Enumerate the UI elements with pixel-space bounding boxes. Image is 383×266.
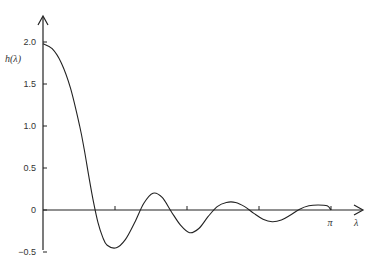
x-tick-label-pi: π [327,217,333,228]
x-axis-ticks: π [115,206,333,228]
y-tick-label: 0.5 [23,163,36,173]
y-tick-label: 0 [31,205,36,215]
chart: 2.01.51.00.50−0.5 π h(λ) λ [0,0,383,266]
y-axis-label: h(λ) [5,53,22,65]
series-h-lambda-line [43,44,331,248]
y-tick-label: 2.0 [23,37,36,47]
x-axis-label: λ [353,217,359,228]
y-tick-label: 1.0 [23,121,36,131]
y-tick-label: −0.5 [18,247,36,257]
y-tick-label: 1.5 [23,79,36,89]
